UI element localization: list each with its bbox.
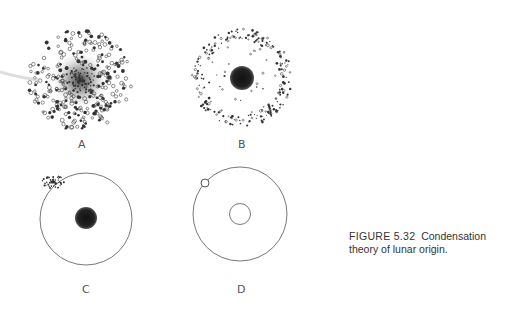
earth-circle [230, 204, 251, 225]
panel-label-a: A [78, 138, 86, 151]
panel-a-cloud [28, 29, 133, 129]
figure-number: FIGURE 5.32 [349, 230, 415, 242]
panel-label-b: B [238, 138, 246, 151]
figure-caption: FIGURE 5.32 Condensation theory of lunar… [349, 230, 509, 256]
panel-label-d: D [237, 283, 245, 296]
moon-circle [201, 179, 209, 187]
figure-drawing [0, 0, 511, 310]
central-condensed-body [75, 207, 97, 229]
panel-d-system [193, 167, 287, 261]
panel-b-system [191, 28, 291, 126]
panel-label-c: C [82, 283, 90, 296]
panel-c-system [40, 173, 132, 265]
